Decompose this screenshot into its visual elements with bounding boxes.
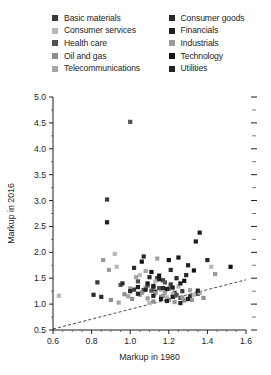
data-point: [134, 275, 138, 279]
y-tick-label: 3.0: [34, 196, 46, 206]
y-tick-label: 0.5: [34, 325, 46, 335]
data-point: [155, 256, 159, 260]
data-point: [151, 299, 155, 303]
data-point: [169, 268, 173, 272]
data-point: [180, 295, 184, 299]
data-point: [57, 294, 61, 298]
data-point: [174, 276, 178, 280]
axes-layer: [49, 97, 257, 334]
y-tick-label: 5.0: [34, 92, 46, 102]
data-point: [186, 263, 190, 267]
data-point: [159, 297, 163, 301]
data-point: [172, 300, 176, 304]
data-point: [149, 270, 153, 274]
data-point: [184, 273, 188, 277]
data-point: [128, 289, 132, 293]
scatter-chart-figure: Basic materialsConsumer servicesHealth c…: [0, 0, 271, 375]
data-point: [201, 296, 205, 300]
data-point: [165, 299, 169, 303]
y-tick-label: 2.5: [34, 221, 46, 231]
x-tick-label: 0.8: [86, 336, 98, 346]
data-point: [136, 279, 140, 283]
data-point: [144, 269, 148, 273]
data-point: [186, 297, 190, 301]
data-point: [163, 280, 167, 284]
y-tick-label: 4.5: [34, 118, 46, 128]
data-point: [165, 287, 169, 291]
data-point: [205, 258, 209, 262]
plot-area-svg: 0.60.81.01.21.41.60.51.01.52.02.53.03.54…: [0, 0, 271, 375]
data-point: [194, 239, 198, 243]
data-point: [132, 266, 136, 270]
data-point: [136, 285, 140, 289]
data-point: [105, 197, 109, 201]
data-point: [228, 265, 232, 269]
data-point: [145, 296, 149, 300]
data-point: [180, 289, 184, 293]
data-point: [140, 260, 144, 264]
data-point: [178, 301, 182, 305]
data-point: [128, 120, 132, 124]
data-point: [109, 298, 113, 302]
data-point: [182, 279, 186, 283]
x-axis-title: Markup in 1980: [119, 352, 180, 362]
x-tick-label: 0.6: [47, 336, 59, 346]
data-point: [176, 255, 180, 259]
data-point: [190, 298, 194, 302]
data-point: [147, 275, 151, 279]
data-point: [115, 265, 119, 269]
series-technology: [140, 255, 233, 283]
data-point: [138, 273, 142, 277]
data-point: [117, 300, 121, 304]
data-point: [192, 268, 196, 272]
data-point: [99, 295, 103, 299]
data-point: [142, 254, 146, 258]
data-point: [171, 295, 175, 299]
data-point: [157, 277, 161, 281]
data-point: [171, 285, 175, 289]
y-tick-label: 4.0: [34, 144, 46, 154]
y-tick-label: 3.5: [34, 170, 46, 180]
data-point: [209, 265, 213, 269]
data-point: [132, 288, 136, 292]
data-point: [145, 281, 149, 285]
data-point: [178, 281, 182, 285]
data-points-layer: [57, 120, 233, 305]
axis-labels-layer: 0.60.81.01.21.41.60.51.01.52.02.53.03.54…: [6, 92, 252, 362]
x-tick-label: 1.0: [124, 336, 136, 346]
data-point: [120, 281, 124, 285]
data-point: [147, 301, 151, 305]
x-tick-label: 1.6: [240, 336, 252, 346]
y-axis-title: Markup in 2016: [6, 183, 16, 244]
data-point: [167, 258, 171, 262]
data-point: [198, 231, 202, 235]
y-tick-label: 2.0: [34, 247, 46, 257]
data-point: [130, 297, 134, 301]
data-point: [151, 284, 155, 288]
y-tick-label: 1.0: [34, 299, 46, 309]
x-tick-label: 1.2: [163, 336, 175, 346]
data-point: [157, 286, 161, 290]
data-point: [91, 293, 95, 297]
data-point: [136, 292, 140, 296]
data-point: [122, 292, 126, 296]
data-point: [151, 294, 155, 298]
data-point: [153, 279, 157, 283]
data-point: [95, 280, 99, 284]
data-point: [213, 272, 217, 276]
data-point: [113, 252, 117, 256]
data-point: [101, 258, 105, 262]
data-point: [161, 286, 165, 290]
data-point: [157, 274, 161, 278]
data-point: [126, 294, 130, 298]
data-point: [196, 289, 200, 293]
y-tick-label: 1.5: [34, 273, 46, 283]
data-point: [188, 288, 192, 292]
data-point: [105, 220, 109, 224]
x-tick-label: 1.4: [201, 336, 213, 346]
data-point: [174, 293, 178, 297]
data-point: [149, 289, 153, 293]
data-point: [144, 288, 148, 292]
data-point: [107, 268, 111, 272]
data-point: [192, 293, 196, 297]
